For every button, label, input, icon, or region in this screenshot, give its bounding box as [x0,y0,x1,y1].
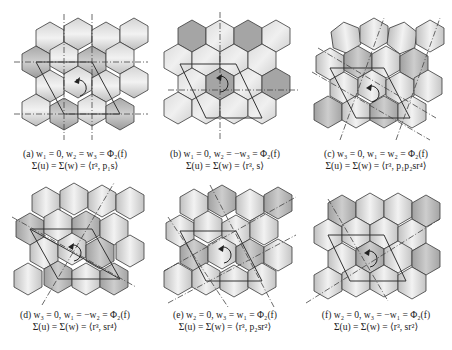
panel-f: (f) w₂ = 0, w₃ = −w₁ = Φ₂(f) Σ(u) = Σ(w)… [300,175,450,350]
hexagonal-tiling-f [300,175,452,315]
caption-b-group: Σ(u) = Σ(w) = ⟨r³, s⟩ [150,160,300,172]
caption-e: (e) w₂ = 0, w₃ = w₁ = Φ₂(f) Σ(u) = Σ(w) … [150,309,300,332]
hexagonal-tiling-a [0,0,150,150]
panel-c: (c) w₃ = 0, w₁ = w₂ = Φ₂(f) Σ(u) = Σ(w) … [300,0,450,175]
caption-a-group: Σ(u) = Σ(w) = ⟨r³, p₁s⟩ [0,160,150,172]
caption-c: (c) w₃ = 0, w₁ = w₂ = Φ₂(f) Σ(u) = Σ(w) … [300,148,452,171]
panel-d: (d) w₃ = 0, w₁ = −w₂ = Φ₂(f) Σ(u) = Σ(w)… [0,175,150,350]
caption-c-condition: (c) w₃ = 0, w₁ = w₂ = Φ₂(f) [300,148,452,160]
caption-d: (d) w₃ = 0, w₁ = −w₂ = Φ₂(f) Σ(u) = Σ(w)… [0,309,150,332]
caption-f-condition: (f) w₂ = 0, w₃ = −w₁ = Φ₂(f) [300,309,452,321]
panel-a: (a) w₁ = 0, w₂ = w₃ = Φ₂(f) Σ(u) = Σ(w) … [0,0,150,175]
panel-e: (e) w₂ = 0, w₃ = w₁ = Φ₂(f) Σ(u) = Σ(w) … [150,175,300,350]
caption-d-condition: (d) w₃ = 0, w₁ = −w₂ = Φ₂(f) [0,309,150,321]
caption-e-group: Σ(u) = Σ(w) = ⟨r³, p₂sr²⟩ [150,321,300,333]
hexagonal-tiling-e [150,175,300,315]
hexagonal-tiling-b [150,0,300,150]
caption-b-condition: (b) w₁ = 0, w₂ = −w₃ = Φ₂(f) [150,148,300,160]
caption-f: (f) w₂ = 0, w₃ = −w₁ = Φ₂(f) Σ(u) = Σ(w)… [300,309,452,332]
caption-e-condition: (e) w₂ = 0, w₃ = w₁ = Φ₂(f) [150,309,300,321]
hexagonal-tiling-d [0,175,150,315]
caption-a-condition: (a) w₁ = 0, w₂ = w₃ = Φ₂(f) [0,148,150,160]
panel-b: (b) w₁ = 0, w₂ = −w₃ = Φ₂(f) Σ(u) = Σ(w)… [150,0,300,175]
hexagonal-tiling-c [300,0,452,150]
caption-d-group: Σ(u) = Σ(w) = ⟨r³, sr⁴⟩ [0,321,150,333]
caption-f-group: Σ(u) = Σ(w) = ⟨r³, sr²⟩ [300,321,452,333]
caption-c-group: Σ(u) = Σ(w) = ⟨r³, p₁p₂sr⁴⟩ [300,160,452,172]
caption-b: (b) w₁ = 0, w₂ = −w₃ = Φ₂(f) Σ(u) = Σ(w)… [150,148,300,171]
caption-a: (a) w₁ = 0, w₂ = w₃ = Φ₂(f) Σ(u) = Σ(w) … [0,148,150,171]
